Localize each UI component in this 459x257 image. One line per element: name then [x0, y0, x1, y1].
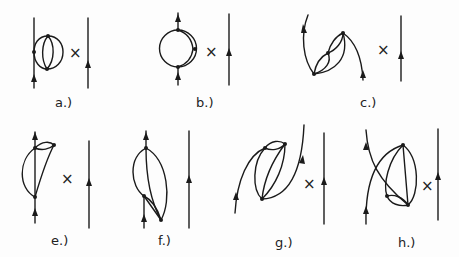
- panel-label: h.): [398, 235, 415, 250]
- arrow-icon: [85, 60, 91, 68]
- panel-f: f.): [133, 131, 192, 248]
- panel-h: × h.): [363, 129, 441, 250]
- vertex: [142, 194, 146, 198]
- vertex: [341, 31, 345, 35]
- propagator: [178, 30, 193, 49]
- propagator: [178, 49, 193, 67]
- propagator: [403, 145, 408, 205]
- vertex: [406, 203, 410, 207]
- panel-a: × a.): [31, 18, 91, 110]
- propagator: [43, 36, 48, 69]
- panel-label: b.): [196, 95, 213, 110]
- vertex: [283, 142, 287, 146]
- arrow-icon: [360, 70, 366, 78]
- propagator: [133, 148, 146, 196]
- vertex: [144, 146, 148, 150]
- vertex: [52, 143, 56, 147]
- panel-label: c.): [360, 95, 376, 110]
- panel-g: × g.): [233, 125, 327, 250]
- vertex: [312, 72, 316, 76]
- panel-label: a.): [55, 95, 72, 110]
- vertex: [260, 197, 264, 201]
- arrow-icon: [141, 214, 147, 222]
- propagator-loop: [160, 30, 197, 67]
- arrow-icon: [186, 175, 192, 183]
- times-sign: ×: [303, 175, 316, 193]
- fermion-line: [303, 15, 314, 74]
- arrow-icon: [301, 24, 307, 33]
- panel-label: g.): [275, 235, 292, 250]
- arrow-icon: [32, 208, 38, 216]
- fermion-line: [343, 33, 363, 80]
- vertex: [401, 143, 405, 147]
- panel-b: × b.): [160, 13, 233, 110]
- propagator: [22, 148, 35, 197]
- vertex: [263, 146, 267, 150]
- times-sign: ×: [61, 170, 74, 188]
- panel-label: e.): [51, 233, 68, 248]
- arrow-icon: [31, 74, 37, 82]
- times-sign: ×: [377, 41, 390, 59]
- vertex: [33, 195, 37, 199]
- arrow-icon: [175, 72, 181, 80]
- propagator: [262, 144, 285, 199]
- arrow-icon: [86, 178, 92, 186]
- arrow-icon: [321, 177, 327, 185]
- arrow-icon: [175, 14, 181, 22]
- arrow-icon: [143, 132, 149, 140]
- panel-c: × c.): [301, 15, 404, 110]
- times-sign: ×: [205, 43, 218, 61]
- panel-label: f.): [158, 233, 171, 248]
- vertex: [326, 51, 330, 55]
- diagram-figure: × a.) × b.) × c.): [0, 0, 459, 257]
- vertex: [32, 50, 36, 54]
- arrow-icon: [226, 48, 232, 56]
- vertex: [45, 67, 49, 71]
- vertex: [33, 146, 37, 150]
- propagator: [328, 33, 343, 53]
- panel-e: × e.): [22, 132, 92, 248]
- vertex: [159, 218, 163, 222]
- propagator: [35, 145, 54, 197]
- arrow-icon: [435, 172, 441, 180]
- times-sign: ×: [421, 177, 434, 195]
- propagator: [34, 36, 48, 69]
- propagator: [47, 36, 63, 69]
- fermion-line: [235, 148, 265, 213]
- vertex: [46, 34, 50, 38]
- propagator: [47, 36, 53, 69]
- vertex: [385, 194, 389, 198]
- arrow-icon: [32, 132, 38, 140]
- vertex: [193, 47, 197, 51]
- vertex: [176, 28, 180, 32]
- propagator: [262, 144, 285, 199]
- vertex: [176, 65, 180, 69]
- times-sign: ×: [69, 44, 82, 62]
- arrow-icon: [398, 51, 404, 59]
- arrow-icon: [363, 206, 369, 214]
